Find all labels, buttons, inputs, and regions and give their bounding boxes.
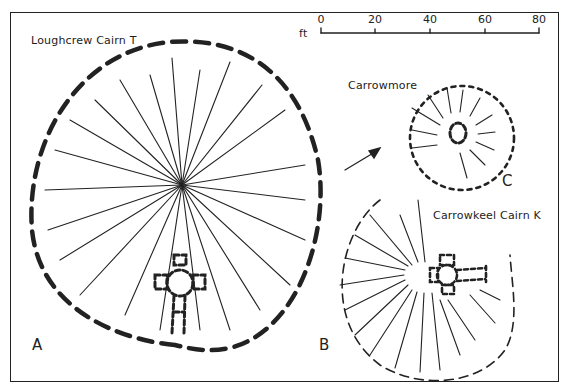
scale-tick-60: 60 <box>478 13 492 26</box>
panel-letter-a: A <box>32 336 42 354</box>
loughcrew-radial-lines <box>45 58 305 330</box>
cairn-plans-drawing <box>0 0 566 391</box>
scale-tick-20: 20 <box>368 13 382 26</box>
scale-unit: ft <box>299 27 307 40</box>
scale-bar <box>321 28 539 33</box>
scale-tick-0: 0 <box>318 13 325 26</box>
carrowkeel-passage-tomb <box>430 255 486 294</box>
carrowkeel-kerb <box>342 200 514 381</box>
carrowmore-chamber <box>450 123 466 143</box>
label-carrowmore: Carrowmore <box>348 79 417 92</box>
panel-letter-c: C <box>502 172 513 190</box>
panel-letter-b: B <box>319 336 330 354</box>
loughcrew-passage-tomb <box>155 255 205 333</box>
loughcrew-kerb <box>31 41 320 350</box>
label-carrowkeel-cairn-k: Carrowkeel Cairn K <box>433 209 541 222</box>
label-loughcrew-cairn-t: Loughcrew Cairn T <box>31 34 137 47</box>
scale-tick-80: 80 <box>532 13 546 26</box>
carrowmore-kerb <box>410 86 514 190</box>
scale-tick-40: 40 <box>423 13 437 26</box>
arrow-b-to-c <box>345 148 380 170</box>
carrowkeel-radial-lines <box>340 200 500 372</box>
